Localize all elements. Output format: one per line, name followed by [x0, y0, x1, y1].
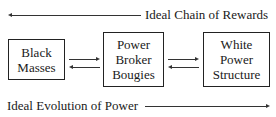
box-line: Masses — [17, 60, 55, 75]
box-line: Broker — [115, 52, 151, 67]
connector-left-line — [171, 67, 199, 68]
connector-left-line — [72, 67, 100, 68]
arrow-right-head-icon — [96, 57, 100, 61]
arrow-right-head-icon — [266, 104, 270, 108]
box-line: Structure — [213, 67, 261, 82]
box-line: Power — [117, 37, 150, 52]
box-power-broker-bougies: Power Broker Bougies — [103, 32, 164, 87]
connector-right-line — [168, 59, 196, 60]
bottom-arrow-line — [145, 106, 267, 107]
arrow-right-head-icon — [195, 57, 199, 61]
box-line: White — [221, 37, 253, 52]
box-line: Black — [21, 45, 51, 60]
box-line: Bougies — [112, 67, 155, 82]
top-arrow-line — [10, 15, 141, 16]
box-white-power-structure: White Power Structure — [203, 32, 270, 87]
box-black-masses: Black Masses — [8, 39, 65, 80]
box-line: Power — [220, 52, 253, 67]
chain-of-rewards-label: Ideal Chain of Rewards — [145, 7, 268, 23]
connector-right-line — [69, 59, 97, 60]
evolution-of-power-label: Ideal Evolution of Power — [7, 98, 138, 114]
